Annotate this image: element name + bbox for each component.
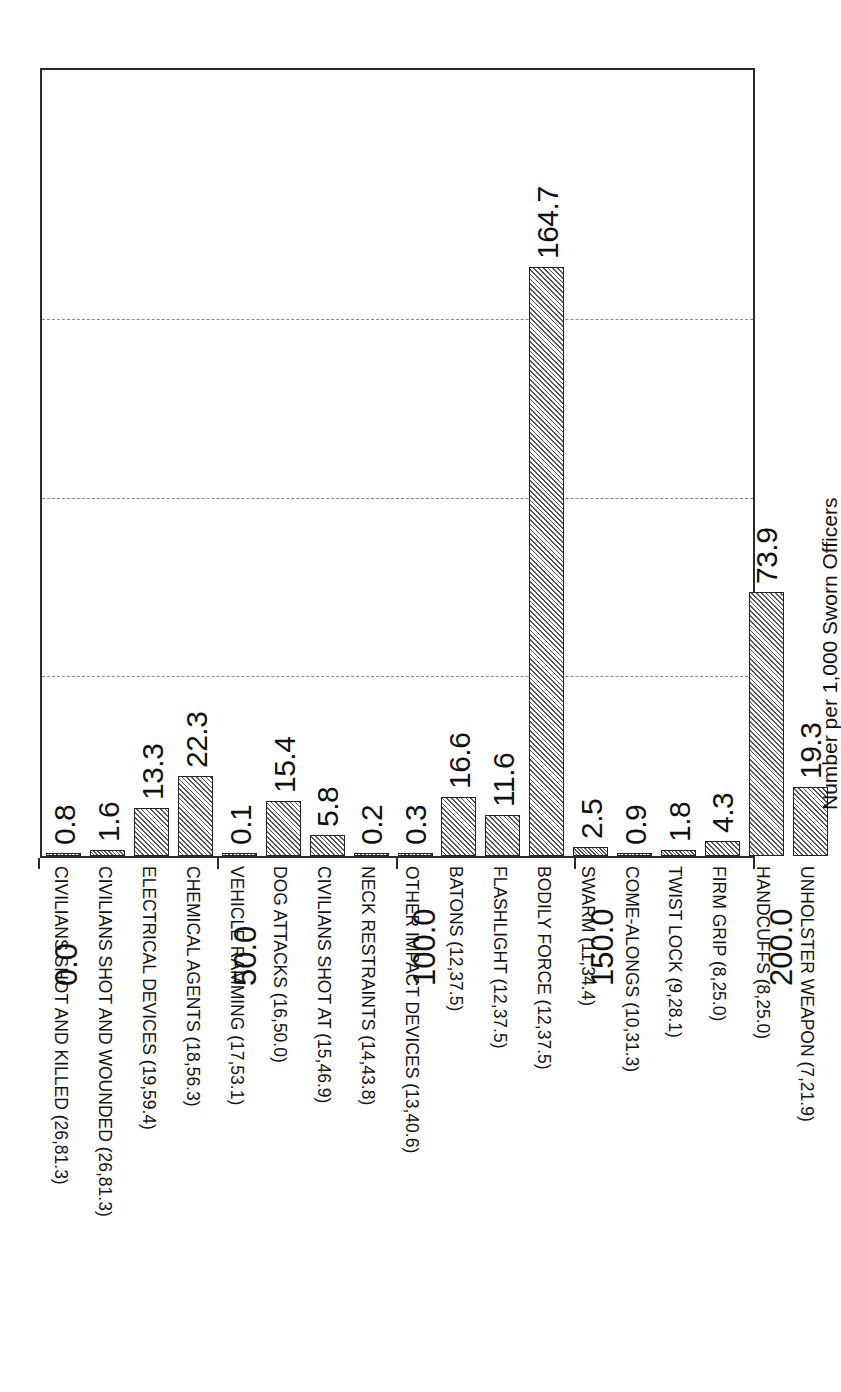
bar-value-label: 1.8 (665, 801, 695, 841)
category-tick-label: BODILY FORCE (12,37.5) (534, 866, 552, 1070)
bar-value-label: 0.9 (621, 805, 651, 845)
category-tick-label: BATONS (12,37.5) (446, 866, 464, 1011)
category-tick-label: VEHICLE RAMMING (17,53.1) (227, 866, 245, 1105)
bar (705, 841, 740, 856)
bar (441, 797, 476, 856)
bar (529, 267, 564, 856)
category-tick-label: TWIST LOCK (9,28.1) (666, 866, 684, 1038)
bar-value-label: 11.6 (489, 752, 519, 806)
bar-value-label: 15.4 (270, 737, 300, 793)
bar-value-label: 0.3 (401, 805, 431, 845)
bar (222, 853, 257, 856)
bar-value-label: 2.5 (577, 799, 607, 839)
bar-value-label: 0.8 (50, 805, 80, 845)
bar (178, 776, 213, 856)
bar (573, 847, 608, 856)
category-tick-label: CIVILIANS SHOT AT (15,46.9) (315, 866, 333, 1103)
bar (354, 853, 389, 856)
category-tick-label: COME-ALONGS (10,31.3) (622, 866, 640, 1072)
category-tick-label: FIRM GRIP (8,25.0) (710, 866, 728, 1021)
bar (90, 850, 125, 856)
plot-area: 0.81.613.322.30.115.45.80.20.316.611.616… (40, 68, 755, 858)
category-tick-label: CHEMICAL AGENTS (18,56.3) (183, 866, 201, 1107)
bar-value-label: 13.3 (138, 744, 168, 800)
category-tick-label: ELECTRICAL DEVICES (19,59.4) (139, 866, 157, 1130)
bars-layer: 0.81.613.322.30.115.45.80.20.316.611.616… (42, 70, 753, 856)
bar-value-label: 164.7 (533, 187, 563, 260)
value-axis-title: Number per 1,000 Sworn Officers (819, 498, 840, 810)
bar-value-label: 1.6 (94, 802, 124, 842)
bar (398, 853, 433, 856)
bar (134, 808, 169, 856)
category-tick-label: NECK RESTRAINTS (14,43.8) (359, 866, 377, 1105)
bar-value-label: 0.2 (357, 805, 387, 845)
bar (310, 835, 345, 856)
bar (749, 592, 784, 856)
bar-value-label: 4.3 (708, 792, 738, 832)
category-tick-label: FLASHLIGHT (12,37.5) (490, 866, 508, 1049)
bar-value-label: 16.6 (445, 732, 475, 788)
bar-value-label: 5.8 (313, 787, 343, 827)
category-tick-label: UNHOLSTER WEAPON (7,21.9) (798, 866, 816, 1122)
bar (46, 853, 81, 856)
category-tick-label: OTHER IMPACT DEVICES (13,40.6) (403, 866, 421, 1153)
category-tick-label: HANDCUFFS (8,25.0) (754, 866, 772, 1039)
category-tick-label: SWARM (11,34.4) (578, 866, 596, 1006)
bar (661, 850, 696, 856)
category-axis-labels: CIVILIANS SHOT AND KILLED (26,81.3)CIVIL… (0, 862, 838, 1302)
bar (266, 801, 301, 856)
category-tick-label: DOG ATTACKS (16,50.0) (271, 866, 289, 1063)
bar-value-label: 22.3 (182, 712, 212, 768)
bar (617, 853, 652, 856)
bar (485, 815, 520, 856)
category-tick-label: CIVILIANS SHOT AND WOUNDED (26,81.3) (95, 866, 113, 1217)
category-tick-label: CIVILIANS SHOT AND KILLED (26,81.3) (51, 866, 69, 1185)
bar-value-label: 0.1 (226, 805, 256, 845)
bar-value-label: 73.9 (752, 527, 782, 583)
